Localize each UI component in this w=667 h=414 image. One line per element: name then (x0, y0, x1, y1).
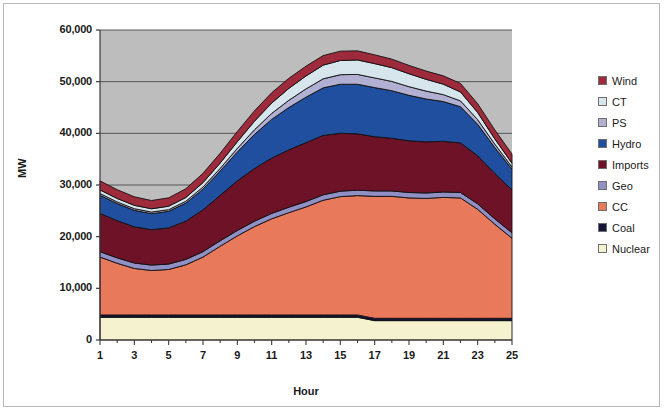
legend-item-hydro[interactable]: Hydro (598, 133, 664, 154)
x-axis-title: Hour (100, 385, 512, 397)
y-tick-label: 50,000 (20, 75, 92, 87)
stacked-area-chart: MW Hour 60,00050,00040,00030,00020,00010… (0, 0, 667, 414)
legend-item-geo[interactable]: Geo (598, 175, 664, 196)
legend-swatch-icon (598, 76, 607, 85)
legend-swatch-icon (598, 244, 607, 253)
y-tick-label: 20,000 (20, 230, 92, 242)
x-tick-label: 15 (328, 349, 352, 361)
legend-label: Wind (612, 75, 637, 87)
legend-label: Coal (612, 222, 635, 234)
legend-swatch-icon (598, 181, 607, 190)
x-tick-label: 13 (294, 349, 318, 361)
x-tick-label: 23 (466, 349, 490, 361)
y-axis-title: MW (16, 158, 28, 178)
legend-item-nuclear[interactable]: Nuclear (598, 238, 664, 259)
x-tick-label: 5 (157, 349, 181, 361)
legend-item-ps[interactable]: PS (598, 112, 664, 133)
y-tick-label: 60,000 (20, 23, 92, 35)
y-tick-label: 40,000 (20, 126, 92, 138)
legend-label: Hydro (612, 138, 641, 150)
x-tick-label: 17 (363, 349, 387, 361)
legend-item-cc[interactable]: CC (598, 196, 664, 217)
legend-swatch-icon (598, 97, 607, 106)
y-tick-label: 30,000 (20, 178, 92, 190)
x-tick-label: 21 (431, 349, 455, 361)
legend-label: Geo (612, 180, 633, 192)
x-tick-label: 9 (225, 349, 249, 361)
legend-item-coal[interactable]: Coal (598, 217, 664, 238)
legend-swatch-icon (598, 160, 607, 169)
legend-item-ct[interactable]: CT (598, 91, 664, 112)
legend-swatch-icon (598, 139, 607, 148)
x-tick-label: 11 (260, 349, 284, 361)
legend-label: CT (612, 96, 627, 108)
x-tick-label: 1 (88, 349, 112, 361)
x-tick-label: 19 (397, 349, 421, 361)
legend-item-wind[interactable]: Wind (598, 70, 664, 91)
y-tick-label: 10,000 (20, 281, 92, 293)
y-tick-label: 0 (20, 333, 92, 345)
x-tick-label: 7 (191, 349, 215, 361)
legend-label: Nuclear (612, 243, 650, 255)
legend-item-imports[interactable]: Imports (598, 154, 664, 175)
legend-label: CC (612, 201, 628, 213)
legend-swatch-icon (598, 118, 607, 127)
chart-legend: WindCTPSHydroImportsGeoCCCoalNuclear (598, 70, 664, 259)
legend-label: PS (612, 117, 627, 129)
x-tick-label: 25 (500, 349, 524, 361)
x-tick-label: 3 (122, 349, 146, 361)
legend-swatch-icon (598, 202, 607, 211)
legend-swatch-icon (598, 223, 607, 232)
legend-label: Imports (612, 159, 649, 171)
